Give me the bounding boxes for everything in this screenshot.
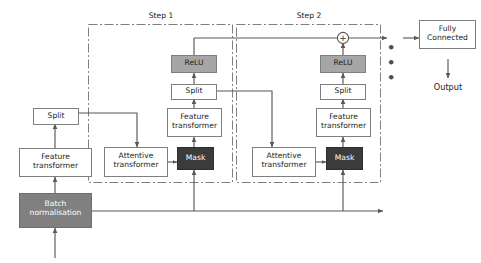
node-batch-norm-label: Batch normalisation [19,200,92,217]
node-feature-2-label: Feature transformer [316,113,371,130]
ellipsis-icon: • • • [387,40,407,85]
edge-split1-to-attentive2 [217,91,272,147]
node-split-2-label: Split [320,87,366,96]
node-feature-left-label: Feature transformer [19,153,92,170]
node-split-1-label: Split [171,87,217,96]
sum-symbol-label: + [337,33,349,43]
node-feature-1-label: Feature transformer [167,113,222,130]
step-1-label: Step 1 [131,12,191,21]
node-mask-2-label: Mask [326,154,363,163]
node-attentive-2-label: Attentive transformer [252,152,316,169]
node-relu-2-label: ReLU [320,59,366,68]
output-label: Output [418,83,478,92]
step-2-label: Step 2 [279,12,339,21]
edge-splitleft-to-attentive1 [78,113,137,147]
diagram-vector-layer [0,0,481,263]
diagram-canvas: Step 1 Step 2 Split Feature transformer … [0,0,481,263]
node-attentive-1-label: Attentive transformer [104,152,168,169]
node-fully-connected-label: Fully Connected [419,25,476,42]
node-relu-1-label: ReLU [171,59,217,68]
node-mask-1-label: Mask [177,154,214,163]
node-split-left-label: Split [33,112,79,121]
